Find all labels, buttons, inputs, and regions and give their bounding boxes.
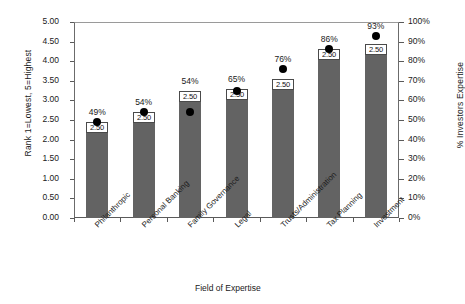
data-point-dot bbox=[140, 108, 148, 116]
y-axis-right-tick-mark bbox=[399, 179, 404, 180]
y-axis-left-tick-label: 2.50 bbox=[25, 115, 59, 124]
y-axis-left-tick-label: 2.00 bbox=[25, 135, 59, 144]
y-axis-right-tick-label: 80% bbox=[408, 56, 448, 65]
x-axis-tick-mark bbox=[353, 218, 354, 222]
y-axis-right-tick-mark bbox=[399, 120, 404, 121]
y-axis-right-tick-label: 30% bbox=[408, 154, 448, 163]
y-axis-left-tick-label: 4.00 bbox=[25, 56, 59, 65]
y-axis-right-tick-mark bbox=[399, 42, 404, 43]
y-axis-left-tick-mark bbox=[70, 81, 74, 82]
y-axis-left-tick-label: 1.00 bbox=[25, 174, 59, 183]
y-axis-left-tick-label: 4.50 bbox=[25, 37, 59, 46]
x-axis-tick-mark bbox=[74, 218, 75, 222]
percent-label: 76% bbox=[263, 54, 303, 64]
y-axis-left-tick-mark bbox=[70, 42, 74, 43]
x-axis-tick-mark bbox=[260, 218, 261, 222]
bar-value-label: 2.50 bbox=[179, 91, 201, 102]
y-axis-left-tick-label: 3.50 bbox=[25, 76, 59, 85]
data-point-dot bbox=[372, 32, 380, 40]
y-axis-right-tick-mark bbox=[399, 81, 404, 82]
y-axis-right-tick-mark bbox=[399, 61, 404, 62]
data-point-dot bbox=[233, 87, 241, 95]
percent-label: 93% bbox=[356, 21, 396, 31]
x-axis-tick-mark bbox=[399, 218, 400, 222]
bar bbox=[133, 112, 155, 218]
y-axis-left-tick-label: 5.00 bbox=[25, 17, 59, 26]
y-axis-left-tick-mark bbox=[70, 198, 74, 199]
y-axis-right-tick-label: 90% bbox=[408, 37, 448, 46]
y-axis-right-tick-label: 60% bbox=[408, 95, 448, 104]
x-axis-tick-mark bbox=[306, 218, 307, 222]
percent-label: 54% bbox=[170, 76, 210, 86]
y-axis-left-title-wrapper: Rank 1=Lowest, 5=Highest bbox=[0, 0, 20, 240]
y-axis-right-tick-label: 70% bbox=[408, 76, 448, 85]
y-axis-right-tick-label: 100% bbox=[408, 17, 448, 26]
y-axis-left-tick-mark bbox=[70, 61, 74, 62]
x-axis-tick-mark bbox=[167, 218, 168, 222]
y-axis-right-tick-label: 50% bbox=[408, 115, 448, 124]
bar bbox=[86, 122, 108, 218]
percent-label: 54% bbox=[124, 97, 164, 107]
y-axis-left-tick-label: 0.00 bbox=[25, 213, 59, 222]
y-axis-left-tick-mark bbox=[70, 159, 74, 160]
percent-label: 65% bbox=[217, 74, 257, 84]
y-axis-left-tick-mark bbox=[70, 22, 74, 23]
y-axis-right-tick-mark bbox=[399, 100, 404, 101]
x-axis-tick-mark bbox=[120, 218, 121, 222]
y-axis-left-tick-mark bbox=[70, 179, 74, 180]
y-axis-right-title: % Investors Expertise bbox=[455, 15, 465, 195]
bar bbox=[226, 89, 248, 218]
y-axis-right-tick-label: 10% bbox=[408, 193, 448, 202]
percent-label: 49% bbox=[77, 107, 117, 117]
percent-label: 86% bbox=[309, 34, 349, 44]
data-point-dot bbox=[279, 65, 287, 73]
y-axis-left-tick-label: 1.50 bbox=[25, 154, 59, 163]
y-axis-right-tick-label: 0% bbox=[408, 213, 448, 222]
y-axis-right-tick-mark bbox=[399, 159, 404, 160]
bar bbox=[365, 44, 387, 218]
bar-value-label: 2.50 bbox=[365, 44, 387, 55]
y-axis-right-tick-label: 20% bbox=[408, 174, 448, 183]
x-axis-tick-mark bbox=[213, 218, 214, 222]
y-axis-right-tick-mark bbox=[399, 22, 404, 23]
y-axis-left-tick-label: 3.00 bbox=[25, 95, 59, 104]
y-axis-right-tick-label: 40% bbox=[408, 135, 448, 144]
bar-value-label: 2.50 bbox=[272, 79, 294, 90]
y-axis-left-tick-mark bbox=[70, 140, 74, 141]
bar bbox=[272, 79, 294, 218]
y-axis-left-tick-mark bbox=[70, 100, 74, 101]
y-axis-left-tick-label: 0.50 bbox=[25, 193, 59, 202]
chart-container: Rank 1=Lowest, 5=Highest % Investors Exp… bbox=[0, 0, 465, 304]
y-axis-left-tick-mark bbox=[70, 120, 74, 121]
x-axis-title: Field of Expertise bbox=[195, 283, 261, 293]
y-axis-right-tick-mark bbox=[399, 140, 404, 141]
